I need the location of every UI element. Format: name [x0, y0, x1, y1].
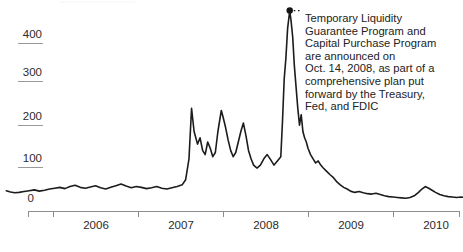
x-tick-end — [459, 211, 460, 217]
x-tick-2009 — [308, 211, 309, 217]
annotation-marker-dot — [287, 7, 293, 13]
x-tick-2008 — [223, 211, 224, 217]
annotation-text: Temporary Liquidity Guarantee Program an… — [305, 12, 457, 113]
x-tick-2006 — [53, 211, 54, 217]
x-tick-start — [28, 211, 29, 217]
x-tick-label-2006: 2006 — [55, 219, 137, 231]
x-tick-label-2008: 2008 — [225, 219, 307, 231]
x-axis-line — [28, 211, 460, 212]
x-tick-2007 — [138, 211, 139, 217]
x-tick-2010 — [393, 211, 394, 217]
x-tick-label-2010: 2010 — [395, 219, 463, 231]
ted-spread-chart: 400 300 200 100 0 2006 2007 2008 2009 20… — [0, 0, 463, 252]
x-tick-label-2007: 2007 — [140, 219, 222, 231]
x-tick-label-2009: 2009 — [310, 219, 392, 231]
